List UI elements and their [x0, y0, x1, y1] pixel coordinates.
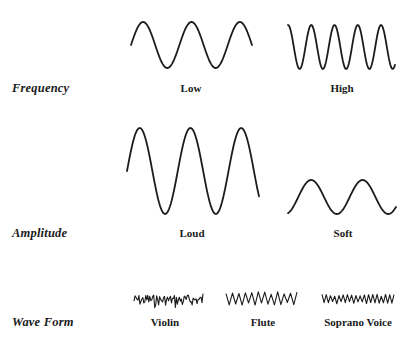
wave-high	[288, 25, 395, 69]
amplitude-label: Amplitude	[12, 226, 67, 241]
caption-soprano-voice: Soprano Voice	[324, 316, 392, 328]
caption-loud: Loud	[179, 227, 204, 239]
caption-soft: Soft	[334, 227, 353, 239]
caption-flute: Flute	[251, 316, 275, 328]
caption-high: High	[330, 82, 353, 94]
wave-loud	[127, 128, 259, 214]
wave-form-label: Wave Form	[12, 315, 74, 330]
wave-soprano-voice	[322, 294, 394, 303]
wave-low	[131, 22, 252, 68]
caption-violin: Violin	[151, 316, 179, 328]
frequency-label: Frequency	[12, 81, 69, 96]
wave-soft	[288, 180, 396, 214]
wave-flute	[226, 292, 297, 305]
caption-low: Low	[181, 82, 202, 94]
waveform-diagram	[0, 0, 407, 362]
wave-violin	[134, 294, 203, 308]
